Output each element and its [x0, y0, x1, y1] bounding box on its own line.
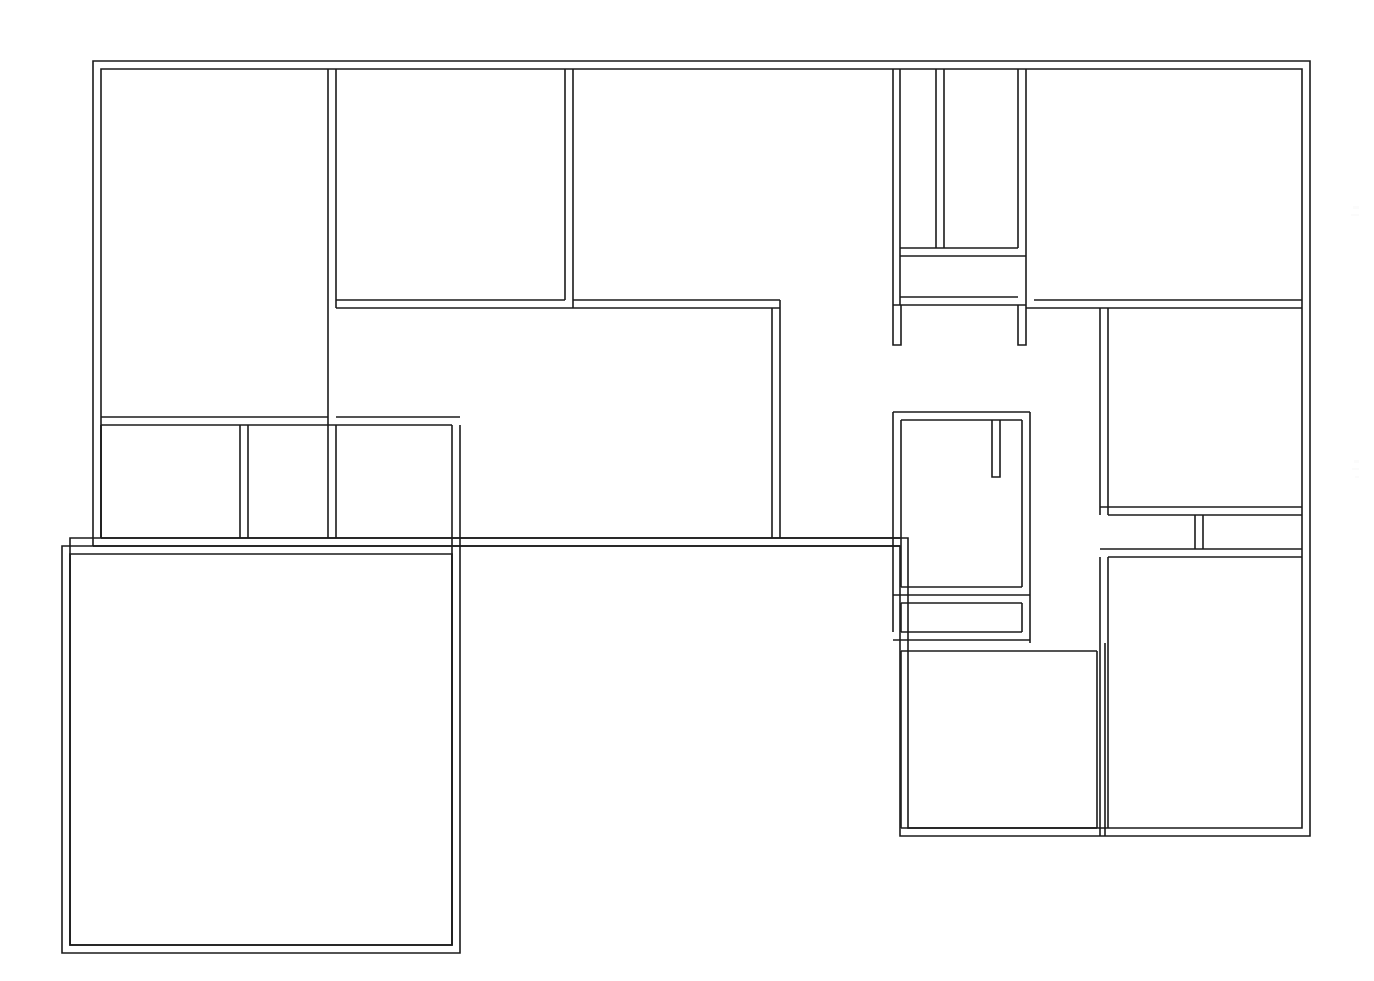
room-right-middle-room[interactable]: [1108, 308, 1302, 507]
room-bottom-right-room[interactable]: [1108, 557, 1302, 828]
room-tiny-room-left[interactable]: [1108, 515, 1195, 549]
room-small-room-right[interactable]: [336, 425, 452, 538]
room-upper-left-room[interactable]: [101, 69, 328, 417]
floor-plan-canvas: [0, 0, 1374, 981]
room-bathroom-with-partition[interactable]: [901, 420, 1022, 587]
room-upper-right-room[interactable]: [1034, 69, 1302, 300]
room-small-room-middle[interactable]: [248, 425, 328, 538]
room-upper-middle-room[interactable]: [336, 69, 565, 300]
room-small-room-left[interactable]: [101, 425, 240, 538]
room-upper-hall-strip[interactable]: [901, 256, 1018, 297]
room-tiny-room-right[interactable]: [1203, 515, 1302, 549]
room-narrow-closet-left[interactable]: [901, 69, 936, 248]
room-bottom-left-large-room[interactable]: [70, 554, 452, 945]
room-narrow-closet-right[interactable]: [944, 69, 1018, 248]
floor-plan-drawing: [0, 0, 1374, 981]
room-upper-wide-room[interactable]: [573, 69, 893, 300]
room-lower-hall-strip[interactable]: [901, 603, 1022, 632]
room-bottom-middle-room[interactable]: [901, 651, 1097, 828]
